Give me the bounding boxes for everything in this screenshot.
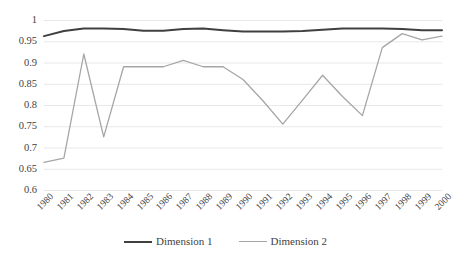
x-tick-label: 1985: [135, 192, 155, 212]
legend-item[interactable]: Dimension 2: [239, 236, 328, 247]
legend-label: Dimension 2: [271, 236, 328, 247]
legend-label: Dimension 1: [156, 236, 213, 247]
x-tick-label: 1983: [95, 192, 115, 212]
y-tick-label: 0.85: [19, 79, 37, 90]
x-tick-label: 1998: [394, 192, 414, 212]
x-axis: 1980198119821983198419851986198719881989…: [44, 190, 442, 232]
y-tick-label: 0.9: [24, 57, 37, 68]
y-tick-label: 0.6: [24, 185, 37, 196]
x-tick-label: 1994: [314, 192, 334, 212]
x-tick-label: 1989: [215, 192, 235, 212]
x-tick-label: 1987: [175, 192, 195, 212]
x-tick-label: 1992: [274, 192, 294, 212]
y-tick-label: 0.65: [19, 164, 37, 175]
legend-item[interactable]: Dimension 1: [124, 236, 213, 247]
x-tick-label: 1993: [294, 192, 314, 212]
x-tick-label: 1986: [155, 192, 175, 212]
y-axis: 10.950.90.850.80.750.70.650.6: [0, 20, 40, 190]
x-tick-label: 1991: [254, 192, 274, 212]
x-tick-label: 1995: [334, 192, 354, 212]
legend-color-swatch: [239, 241, 267, 242]
x-tick-label: 1981: [55, 192, 75, 212]
x-tick-label: 1996: [354, 192, 374, 212]
series-line: [44, 34, 442, 163]
y-tick-label: 0.8: [24, 100, 37, 111]
x-tick-label: 1999: [414, 192, 434, 212]
series-lines: [44, 20, 442, 190]
y-tick-label: 0.7: [24, 142, 37, 153]
y-tick-label: 0.95: [19, 36, 37, 47]
series-line: [44, 29, 442, 37]
y-tick-label: 1: [32, 15, 37, 26]
chart-legend: Dimension 1Dimension 2: [0, 236, 451, 247]
x-tick-label: 1980: [36, 192, 56, 212]
y-tick-label: 0.75: [19, 121, 37, 132]
plot-area: [44, 20, 442, 190]
legend-color-swatch: [124, 241, 152, 243]
x-tick-label: 1988: [195, 192, 215, 212]
x-tick-label: 1982: [75, 192, 95, 212]
x-tick-label: 2000: [434, 192, 454, 212]
x-tick-label: 1997: [374, 192, 394, 212]
x-tick-label: 1984: [115, 192, 135, 212]
x-tick-label: 1990: [235, 192, 255, 212]
